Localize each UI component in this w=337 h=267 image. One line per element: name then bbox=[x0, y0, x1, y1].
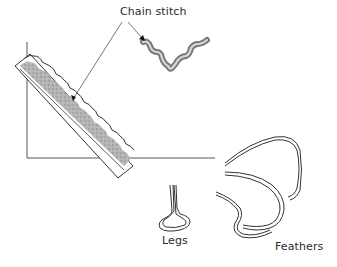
embroidery-diagram bbox=[0, 0, 337, 267]
legs-label: Legs bbox=[162, 234, 188, 247]
feathers-label: Feathers bbox=[275, 240, 323, 253]
wavy-v-stitch bbox=[143, 40, 207, 69]
chain-stitch-leader-lines bbox=[71, 22, 145, 101]
chain-stitch-label: Chain stitch bbox=[120, 5, 187, 18]
diagonal-stitched-strip bbox=[15, 54, 134, 178]
legs-stitch bbox=[159, 185, 190, 231]
feathers-stitch bbox=[216, 137, 302, 238]
